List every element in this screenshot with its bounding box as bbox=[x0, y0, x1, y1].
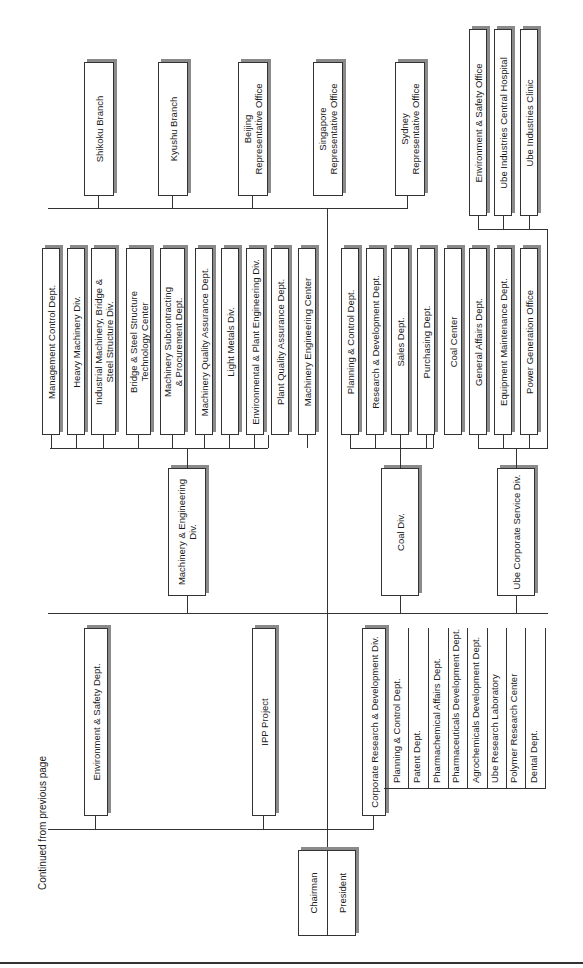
ipp-project-box[interactable]: IPP Project bbox=[252, 628, 276, 816]
divider bbox=[448, 628, 449, 788]
connector bbox=[375, 435, 376, 448]
service-child[interactable]: Equipment Maintenance Dept. bbox=[494, 248, 512, 435]
dept-label: Industrial Machinery, Bridge & Steel Str… bbox=[93, 278, 115, 404]
dept-label: Plant Quality Assurance Dept. bbox=[275, 278, 286, 404]
connector bbox=[547, 229, 548, 448]
connector bbox=[51, 435, 52, 448]
branch-sydney[interactable]: Sydney Representative Office bbox=[395, 62, 425, 196]
mach-child[interactable]: Management Control Dept. bbox=[42, 248, 60, 435]
service-div-box[interactable]: Ube Corporate Service Div. bbox=[497, 468, 535, 596]
coal-children-line bbox=[350, 448, 433, 449]
branch-label: Sydney Representative Office bbox=[399, 83, 421, 174]
executive-box[interactable]: Chairman President bbox=[298, 850, 356, 936]
connector bbox=[76, 435, 77, 448]
divider bbox=[428, 628, 429, 788]
divider bbox=[545, 628, 546, 788]
connector bbox=[204, 435, 205, 448]
connector bbox=[350, 435, 351, 448]
mach-child[interactable]: Light Metals Div. bbox=[221, 248, 239, 435]
mach-child[interactable]: Machinery Engineering Center bbox=[298, 248, 316, 435]
env-safety-dept-box[interactable]: Environment & Safety Dept. bbox=[84, 628, 108, 816]
dept-label: Machinery Subcontracting & Procurement D… bbox=[162, 287, 184, 397]
mach-child[interactable]: Machinery Subcontracting & Procurement D… bbox=[160, 248, 185, 435]
dept-label: Heavy Machinery Div. bbox=[71, 296, 82, 388]
service-office[interactable]: Environment & Safety Office bbox=[469, 29, 487, 216]
connector bbox=[307, 435, 308, 448]
connector bbox=[400, 435, 401, 448]
mach-child[interactable]: Environmental & Plant Engineering Div. bbox=[246, 248, 264, 435]
connector bbox=[187, 448, 188, 468]
coal-child[interactable]: Coal Center bbox=[444, 248, 462, 435]
coal-child[interactable]: Sales Dept. bbox=[391, 248, 409, 435]
mach-child[interactable]: Machinery Quality Assurance Dept. bbox=[195, 248, 213, 435]
rnd-child[interactable]: Patent Dept. bbox=[411, 730, 422, 783]
divider bbox=[487, 628, 488, 788]
service-office[interactable]: Ube Industries Clinic bbox=[520, 29, 538, 216]
connector bbox=[529, 435, 530, 448]
rnd-child[interactable]: Polymer Research Center bbox=[508, 674, 519, 783]
machinery-div-box[interactable]: Machinery & Engineering Div. bbox=[168, 468, 206, 596]
rnd-child[interactable]: Pharmachemical Affairs Dept. bbox=[431, 658, 442, 783]
rnd-child[interactable]: Pharmaceuticals Development Dept. bbox=[450, 629, 461, 783]
branch-label: Shikoku Branch bbox=[94, 96, 105, 163]
branch-singapore[interactable]: Singapore Representative Office bbox=[313, 62, 343, 196]
service-child[interactable]: Power Generation Office bbox=[520, 248, 538, 435]
rnd-child[interactable]: Ube Research Laboratory bbox=[489, 674, 500, 783]
connector bbox=[172, 195, 173, 208]
connector bbox=[95, 816, 96, 829]
branch-label: Singapore Representative Office bbox=[317, 83, 339, 174]
division-label: Ube Corporate Service Div. bbox=[511, 475, 522, 590]
offices-line bbox=[478, 229, 548, 230]
connector bbox=[268, 435, 269, 448]
connector bbox=[529, 216, 530, 229]
connector bbox=[407, 195, 408, 208]
coal-child[interactable]: Research & Development Dept. bbox=[366, 248, 384, 435]
connector bbox=[400, 595, 401, 613]
divider bbox=[467, 628, 468, 788]
dept-label: Machinery Quality Assurance Dept. bbox=[199, 267, 210, 415]
division-label: Coal Div. bbox=[395, 513, 406, 551]
dept-label: Light Metals Div. bbox=[225, 307, 236, 377]
dept-label: General Affairs Dept. bbox=[473, 297, 484, 385]
continued-note: Continued from previous page bbox=[37, 756, 48, 890]
connector bbox=[252, 195, 253, 208]
service-office[interactable]: Ube Industries Central Hospital bbox=[494, 29, 512, 216]
connector bbox=[138, 435, 139, 448]
page-rule bbox=[0, 962, 583, 964]
rnd-child[interactable]: Dental Dept. bbox=[528, 730, 539, 783]
divider bbox=[408, 628, 409, 788]
divider bbox=[327, 851, 328, 935]
mach-child[interactable]: Bridge & Steel Structure Technology Cent… bbox=[126, 248, 151, 435]
coal-child[interactable]: Purchasing Dept. bbox=[417, 248, 435, 435]
branch-kyushu[interactable]: Kyushu Branch bbox=[158, 62, 188, 196]
rnd-child[interactable]: Planning & Control Dept. bbox=[391, 678, 402, 783]
connector bbox=[503, 216, 504, 229]
connector bbox=[229, 435, 230, 448]
president-label: President bbox=[337, 873, 348, 913]
connector bbox=[263, 816, 264, 829]
connector bbox=[172, 435, 173, 448]
branch-beijing[interactable]: Beijing Representative Office bbox=[238, 62, 268, 196]
connector bbox=[433, 435, 434, 448]
service-child[interactable]: General Affairs Dept. bbox=[469, 248, 487, 435]
coal-div-box[interactable]: Coal Div. bbox=[381, 468, 419, 596]
branch-shikoku[interactable]: Shikoku Branch bbox=[84, 62, 114, 196]
mach-child[interactable]: Industrial Machinery, Bridge & Steel Str… bbox=[91, 248, 116, 435]
staff-label: IPP Project bbox=[259, 698, 270, 745]
connector bbox=[103, 435, 104, 448]
rnd-div-box[interactable]: Corporate Research & Development Div. bbox=[362, 628, 386, 816]
connector bbox=[373, 816, 374, 829]
branch-label: Beijing Representative Office bbox=[242, 83, 264, 174]
dept-label: Purchasing Dept. bbox=[421, 305, 432, 378]
dept-label: Management Control Dept. bbox=[46, 284, 57, 398]
connector bbox=[516, 448, 517, 468]
dept-label: Bridge & Steel Structure Technology Cent… bbox=[128, 291, 150, 393]
rnd-list-base bbox=[384, 788, 546, 789]
rnd-child[interactable]: Agrochemicals Development Dept. bbox=[470, 637, 481, 783]
office-label: Ube Industries Clinic bbox=[524, 79, 535, 166]
mach-child[interactable]: Heavy Machinery Div. bbox=[67, 248, 85, 435]
dept-label: Environmental & Plant Engineering Div. bbox=[250, 259, 261, 425]
chairman-label: Chairman bbox=[308, 872, 319, 913]
mach-child[interactable]: Plant Quality Assurance Dept. bbox=[271, 248, 289, 435]
coal-child[interactable]: Planning & Control Dept. bbox=[341, 248, 359, 435]
